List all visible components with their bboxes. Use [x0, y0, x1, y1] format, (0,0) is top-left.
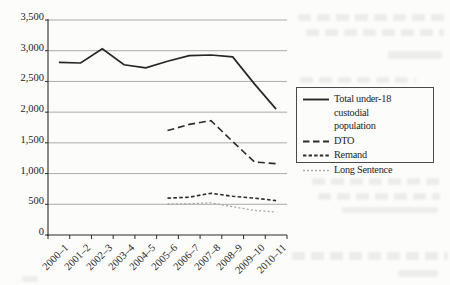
- scan-bleed-artifact: [306, 29, 444, 36]
- legend-swatch-long-sentence-line: [303, 168, 329, 173]
- scan-bleed-artifact: [312, 178, 444, 185]
- legend-item-total: Total under-18 custodial population: [303, 92, 428, 133]
- legend-label: Remand: [334, 148, 367, 162]
- scanned-line-chart-figure: 05001,0001,5002,0002,5003,0003,5002000–1…: [0, 0, 450, 285]
- scan-bleed-artifact: [298, 14, 446, 21]
- scan-bleed-artifact: [388, 51, 442, 59]
- legend-label: DTO: [334, 134, 354, 148]
- series-line-dto: [168, 121, 277, 164]
- legend-swatch-total-line: [303, 97, 329, 102]
- legend-box: Total under-18 custodial populationDTORe…: [296, 87, 434, 163]
- legend-items: Total under-18 custodial populationDTORe…: [303, 92, 428, 176]
- legend-item-long-sentence: Long Sentence: [303, 163, 428, 177]
- legend-label: Long Sentence: [334, 163, 392, 177]
- series-line-total: [59, 49, 276, 109]
- legend-swatch-dto-line: [303, 139, 329, 144]
- legend-item-remand: Remand: [303, 148, 428, 162]
- scan-bleed-artifact: [342, 207, 438, 213]
- scan-bleed-artifact: [398, 270, 438, 277]
- scan-bleed-artifact: [300, 77, 416, 83]
- scan-bleed-artifact: [22, 276, 38, 282]
- scan-bleed-artifact: [318, 193, 440, 200]
- legend-item-dto: DTO: [303, 134, 428, 148]
- scan-bleed-artifact: [292, 252, 448, 260]
- legend-swatch-remand-line: [303, 153, 329, 158]
- legend-label: Total under-18 custodial population: [334, 92, 428, 133]
- series-line-remand: [168, 193, 277, 200]
